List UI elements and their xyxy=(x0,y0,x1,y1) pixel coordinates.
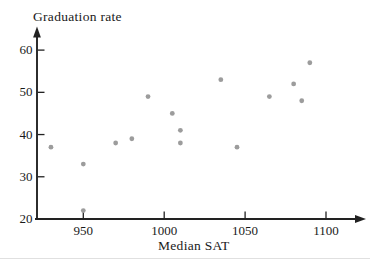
svg-text:20: 20 xyxy=(20,211,33,226)
y-axis-title: Graduation rate xyxy=(33,9,122,25)
svg-text:50: 50 xyxy=(20,84,33,99)
scan-artifact-line xyxy=(0,258,370,259)
svg-text:60: 60 xyxy=(20,42,33,57)
svg-text:1050: 1050 xyxy=(232,223,258,238)
svg-text:950: 950 xyxy=(74,223,94,238)
scatter-canvas: 9501000105011002030405060 xyxy=(0,0,370,266)
scatter-plot-figure: 9501000105011002030405060 Graduation rat… xyxy=(0,0,370,266)
svg-text:1100: 1100 xyxy=(313,223,339,238)
svg-text:40: 40 xyxy=(20,127,33,142)
svg-text:1000: 1000 xyxy=(151,223,177,238)
svg-text:30: 30 xyxy=(20,169,33,184)
x-axis-title: Median SAT xyxy=(158,238,230,254)
